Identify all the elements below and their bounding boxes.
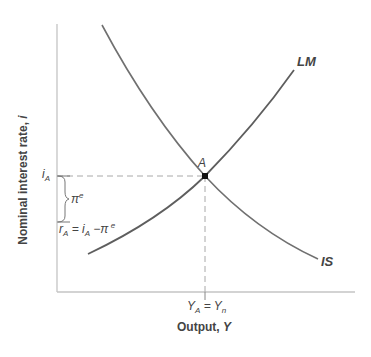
y-a-label: YA = Yn: [187, 299, 227, 315]
is-label: IS: [321, 254, 334, 269]
x-axis-title: Output, Y: [177, 320, 232, 334]
is-curve: [102, 25, 318, 259]
pi-e-label: πe: [71, 191, 84, 206]
r-a-equation: rA = iA −π e: [59, 221, 116, 238]
brace: [58, 176, 69, 222]
point-a-label: A: [197, 156, 206, 170]
equilibrium-point: [202, 173, 208, 179]
y-axis-title: Nominal interest rate, i: [16, 115, 30, 245]
i-a-label: iA: [42, 167, 50, 183]
is-lm-diagram: LM IS A iA πe rA = iA −π e YA = Yn Outpu…: [0, 0, 371, 357]
lm-label: LM: [297, 54, 317, 69]
